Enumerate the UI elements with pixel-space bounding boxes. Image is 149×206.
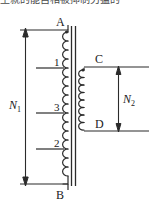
n2-label: N2 — [123, 92, 135, 108]
n1-label: N1 — [9, 98, 21, 114]
n2-label-subscript: 2 — [131, 99, 135, 108]
n1-dimension-line — [23, 28, 28, 186]
terminal-c-label: C — [95, 52, 103, 67]
terminal-a-label: A — [56, 15, 65, 30]
tap-label-2: 2 — [54, 137, 60, 149]
secondary-winding-coil — [79, 68, 84, 130]
secondary-polarity-dot-icon — [82, 69, 85, 72]
n2-dimension-line — [116, 66, 121, 132]
magnetic-core-icon — [72, 26, 76, 186]
terminal-d-label: D — [95, 117, 104, 132]
primary-polarity-dot-icon — [65, 31, 68, 34]
primary-winding-coil — [63, 30, 68, 184]
tap-label-1: 1 — [54, 56, 60, 68]
terminal-b-label: B — [56, 188, 64, 203]
n1-label-subscript: 1 — [17, 105, 21, 114]
n1-label-base: N — [9, 98, 17, 112]
n2-label-base: N — [123, 92, 131, 106]
transformer-figure: 生就的能自相被抑制另猛的 — [0, 0, 149, 206]
tap-label-3: 3 — [54, 101, 60, 113]
